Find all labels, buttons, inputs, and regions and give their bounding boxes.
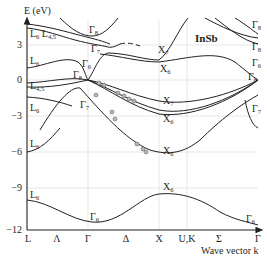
label-L6-m6: L6 <box>30 139 39 149</box>
label-Gr6: Γ6 <box>252 58 261 68</box>
x-tick-Sigma: Σ <box>216 234 222 244</box>
label-Gr8-0: Γ8 <box>248 72 257 82</box>
label-G8-top: Γ8 <box>89 25 98 35</box>
y-axis-label: E (eV) <box>24 6 51 16</box>
x-tick-Gamma: Γ <box>85 234 91 244</box>
x-tick-UK: U,K <box>179 234 196 244</box>
label-X6-m9: X6 <box>163 182 173 192</box>
label-L6-mid: L6 <box>30 56 39 66</box>
label-L45: L4,5 <box>30 81 44 91</box>
label-X6-top: X6 <box>160 64 170 74</box>
label-X6-m6: X6 <box>163 146 173 156</box>
x-tick-Lambda: Λ <box>53 234 60 244</box>
grid-lines <box>27 20 258 230</box>
label-Gr8-top: Γ8 <box>252 20 261 30</box>
label-Gr8-2: Γ8 <box>252 42 261 52</box>
y-tick-0: 0 <box>0 75 22 85</box>
label-G8: Γ8 <box>73 70 82 80</box>
label-G6: Γ6 <box>82 59 91 69</box>
label-Gr7: Γ7 <box>252 104 261 114</box>
label-L6-L45-top: L6 L4,5 <box>30 29 56 39</box>
label-X6-mid: X6 <box>163 114 173 124</box>
x-axis-label: Wave vector k <box>201 246 259 256</box>
band-curves <box>27 18 258 225</box>
label-Gr6-bottom: Γ6 <box>246 214 255 224</box>
label-G7: Γ7 <box>91 44 100 54</box>
label-G6-bottom: Γ6 <box>90 212 99 222</box>
label-L6-low: L6 <box>30 103 39 113</box>
label-X7-top: X7 <box>158 45 168 55</box>
x-tick-Delta: Δ <box>123 234 129 244</box>
band-structure-plot <box>0 0 267 261</box>
label-G7-low: Γ7 <box>80 100 89 110</box>
x-tick-L: L <box>25 234 31 244</box>
x-tick-Gamma-right: Γ <box>255 234 261 244</box>
x-tick-X: X <box>155 234 162 244</box>
y-tick-m9: −9 <box>0 183 22 193</box>
y-tick-m3: −3 <box>0 111 22 121</box>
label-X7-mid: X7 <box>163 96 173 106</box>
y-tick-3: 3 <box>0 40 22 50</box>
y-tick-m6: −6 <box>0 147 22 157</box>
y-tick-m12: −12 <box>0 225 22 235</box>
material-title: InSb <box>195 32 218 44</box>
label-L6-m10: L6 <box>30 190 39 200</box>
experimental-points <box>94 81 148 154</box>
